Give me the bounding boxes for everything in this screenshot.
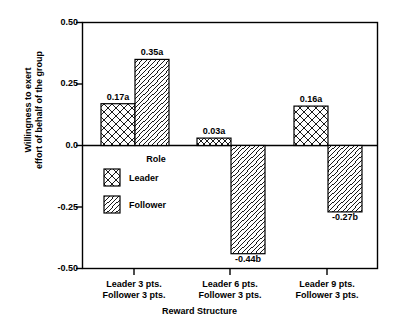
x-tick-label-group-2-line-1: Leader 6 pts. <box>202 279 258 289</box>
x-axis-ticks <box>134 269 327 276</box>
bar-value-label-follower-group-1: 0.35a <box>128 47 176 57</box>
x-tick-label-group-3-line-1: Leader 9 pts. <box>299 279 355 289</box>
bar-leader-group-3 <box>294 106 328 145</box>
plot-area <box>0 0 399 326</box>
x-tick-label-group-1-line-1: Leader 3 pts. <box>106 279 162 289</box>
chart-figure: Willingness to exert effort of behalf of… <box>0 0 399 326</box>
x-tick-label-group-2-line-2: Follower 3 pts. <box>198 290 261 300</box>
bar-leader-group-2 <box>197 138 231 145</box>
bar-value-label-follower-group-2: -0.44b <box>224 254 272 264</box>
bar-value-label-follower-group-3: -0.27b <box>321 212 369 222</box>
x-axis-title: Reward Structure <box>0 306 399 316</box>
bar-value-label-leader-group-2: 0.03a <box>190 126 238 136</box>
x-tick-label-group-1: Leader 3 pts. Follower 3 pts. <box>79 279 189 301</box>
bar-value-label-leader-group-1: 0.17a <box>94 92 142 102</box>
legend-swatch-follower <box>104 196 120 213</box>
legend-label-follower: Follower <box>129 200 166 210</box>
bar-follower-group-2 <box>231 146 265 254</box>
bar-follower-group-3 <box>328 146 362 212</box>
bar-leader-group-1 <box>101 104 135 146</box>
x-tick-label-group-3: Leader 9 pts. Follower 3 pts. <box>272 279 382 301</box>
bar-follower-group-1 <box>135 59 169 145</box>
x-tick-label-group-2: Leader 6 pts. Follower 3 pts. <box>175 279 285 301</box>
x-tick-label-group-1-line-2: Follower 3 pts. <box>102 290 165 300</box>
legend-title: Role <box>126 154 186 164</box>
legend-label-leader: Leader <box>129 173 159 183</box>
x-tick-label-group-3-line-2: Follower 3 pts. <box>295 290 358 300</box>
y-axis-ticks <box>76 23 83 269</box>
bar-value-label-leader-group-3: 0.16a <box>287 94 335 104</box>
legend-swatch-leader <box>104 169 120 186</box>
